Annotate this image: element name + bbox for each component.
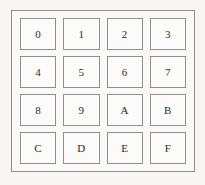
keypad-key-label: C <box>34 143 42 154</box>
keypad-key-label: 1 <box>79 29 85 40</box>
keypad-key-label: F <box>165 143 171 154</box>
keypad-key-label: 2 <box>122 29 128 40</box>
keypad-key-label: B <box>164 105 172 116</box>
keypad-key-2[interactable]: 2 <box>107 18 143 50</box>
keypad-key-label: 7 <box>165 67 171 78</box>
keypad-key-3[interactable]: 3 <box>150 18 186 50</box>
keypad-key-d[interactable]: D <box>63 132 99 164</box>
keypad-key-label: 9 <box>79 105 85 116</box>
keypad-key-label: D <box>77 143 85 154</box>
keypad-key-label: E <box>121 143 128 154</box>
keypad-key-c[interactable]: C <box>20 132 56 164</box>
hex-keypad-figure: 0 1 2 3 4 5 6 7 8 9 A B C D E F <box>0 0 205 185</box>
keypad-key-f[interactable]: F <box>150 132 186 164</box>
keypad-key-7[interactable]: 7 <box>150 56 186 88</box>
keypad-key-e[interactable]: E <box>107 132 143 164</box>
keypad-key-9[interactable]: 9 <box>63 94 99 126</box>
keypad-key-5[interactable]: 5 <box>63 56 99 88</box>
keypad-key-4[interactable]: 4 <box>20 56 56 88</box>
keypad-key-label: 5 <box>79 67 85 78</box>
keypad-key-1[interactable]: 1 <box>63 18 99 50</box>
keypad-grid: 0 1 2 3 4 5 6 7 8 9 A B C D E F <box>20 18 186 164</box>
keypad-key-label: 4 <box>35 67 41 78</box>
keypad-key-8[interactable]: 8 <box>20 94 56 126</box>
keypad-frame: 0 1 2 3 4 5 6 7 8 9 A B C D E F <box>11 10 195 172</box>
keypad-key-a[interactable]: A <box>107 94 143 126</box>
keypad-key-b[interactable]: B <box>150 94 186 126</box>
keypad-key-label: 3 <box>165 29 171 40</box>
keypad-key-0[interactable]: 0 <box>20 18 56 50</box>
keypad-key-label: A <box>121 105 129 116</box>
keypad-key-label: 6 <box>122 67 128 78</box>
keypad-key-6[interactable]: 6 <box>107 56 143 88</box>
keypad-key-label: 8 <box>35 105 41 116</box>
keypad-key-label: 0 <box>35 29 41 40</box>
